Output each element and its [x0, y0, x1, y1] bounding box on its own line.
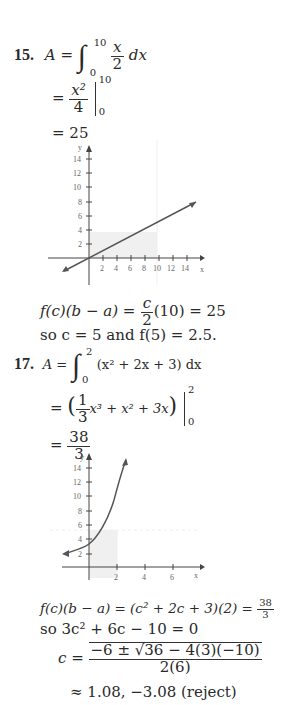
svg-text:6: 6: [128, 264, 132, 273]
problem-17-quadratic: so 3c² + 6c − 10 = 0: [40, 620, 198, 638]
svg-text:y: y: [78, 143, 82, 152]
svg-text:12: 12: [167, 264, 175, 273]
svg-text:6: 6: [170, 573, 174, 580]
svg-text:4: 4: [78, 535, 82, 544]
svg-text:6: 6: [78, 521, 82, 530]
graph-problem-17: y x 246 246 81012 14: [40, 450, 220, 580]
integrand: x2: [111, 40, 125, 73]
problem-15-mvt: f(c)(b − a) = c2(10) = 25: [40, 296, 226, 329]
svg-text:2: 2: [114, 573, 118, 580]
svg-text:4: 4: [142, 573, 146, 580]
problem-15-conclusion: so c = 5 and f(5) = 2.5.: [40, 326, 217, 344]
problem-15-line-2: = x²4 10 0: [52, 82, 109, 116]
svg-text:x: x: [194, 571, 198, 580]
svg-text:2: 2: [78, 550, 82, 559]
svg-text:12: 12: [73, 478, 81, 487]
problem-17-line-2: = (13x³ + x² + 3x) 2 0: [50, 392, 196, 426]
quadratic-formula: c = −6 ± √36 − 4(3)(−10)2(6): [58, 642, 262, 676]
problem-number: 17.: [14, 355, 34, 372]
shaded-area: [89, 530, 117, 578]
svg-text:y: y: [80, 453, 84, 462]
problem-17-mvt: f(c)(b − a) = (c² + 2c + 3)(2) = 383: [40, 598, 274, 620]
integral-sign: ∫: [78, 39, 86, 72]
svg-text:14: 14: [181, 264, 189, 273]
svg-text:12: 12: [73, 169, 81, 178]
function-line: [64, 202, 196, 271]
graph-problem-15: y x 246 81012 14 246 81012 14: [40, 140, 220, 285]
svg-text:2: 2: [78, 240, 82, 249]
approximation: ≈ 1.08, −3.08 (reject): [70, 683, 237, 701]
svg-text:4: 4: [78, 226, 82, 235]
shaded-area: [89, 232, 157, 258]
svg-text:6: 6: [78, 212, 82, 221]
svg-text:10: 10: [153, 264, 161, 273]
svg-text:14: 14: [73, 155, 81, 164]
svg-text:8: 8: [78, 198, 82, 207]
problem-15-line-1: 15. A = ∫ 10 0 x2 dx: [14, 40, 147, 73]
svg-text:10: 10: [73, 183, 81, 192]
svg-text:14: 14: [73, 464, 81, 473]
svg-text:x: x: [200, 265, 204, 274]
svg-text:2: 2: [100, 264, 104, 273]
svg-text:8: 8: [142, 264, 146, 273]
svg-text:8: 8: [78, 507, 82, 516]
problem-number: 15.: [14, 46, 34, 63]
svg-text:10: 10: [73, 492, 81, 501]
problem-17-line-1: 17. A = ∫ 2 0 (x² + 2x + 3) dx: [14, 350, 201, 380]
svg-text:4: 4: [114, 264, 118, 273]
